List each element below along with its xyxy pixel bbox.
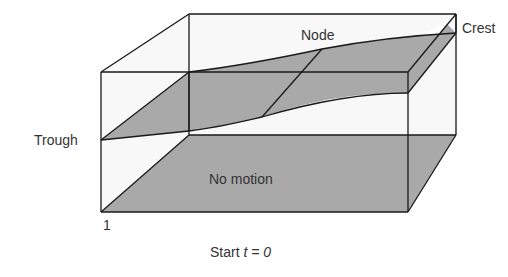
trough-label: Trough — [34, 133, 78, 147]
caption-variable: t = 0 — [243, 244, 271, 260]
no-motion-label: No motion — [209, 172, 273, 186]
corner-index-label: 1 — [103, 218, 111, 232]
node-label: Node — [301, 28, 334, 42]
crest-label: Crest — [462, 21, 495, 35]
caption: Start t = 0 — [210, 245, 271, 259]
caption-prefix: Start — [210, 244, 243, 260]
